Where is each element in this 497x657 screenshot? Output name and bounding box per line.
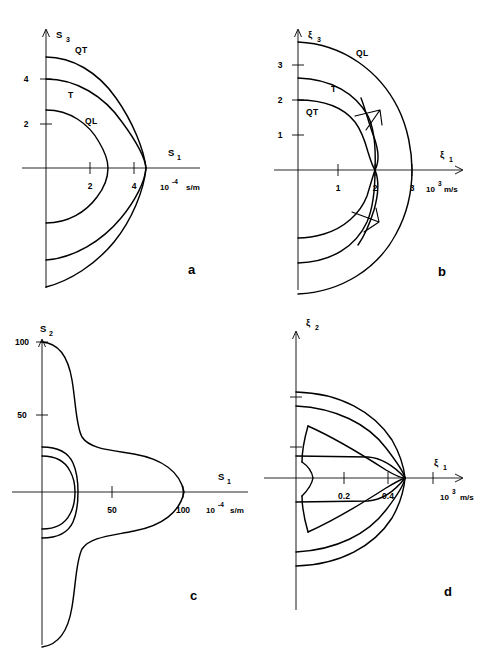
panel-b-ytick-label-3: 3 [278,60,283,70]
panel-b-x-axis-name: ξ [440,149,445,160]
panel-a-xtick-label-4: 4 [132,181,137,191]
panel-a-x-axis-sub: 1 [177,154,181,161]
panel-b-y-axis-name: ξ [308,29,313,40]
panel-c-ytick-label-50: 50 [17,410,27,420]
panel-a-mode-label-qt: QT [75,45,88,55]
panel-b-xtick-label-1: 1 [336,183,341,193]
panel-c-ytick-label-100: 100 [15,337,29,347]
panel-a-unit-text: s/m [186,183,200,192]
panel-c-xtick-label-50: 50 [107,505,117,515]
panel-b-mode-label-ql: QL [356,48,369,58]
panel-a-ytick-label-4: 4 [24,74,29,84]
panel-a-curve-qt [46,57,146,287]
panel-d-x-axis-sub: 1 [443,464,447,471]
panel-a-curve-ql [46,110,108,223]
panel-b-ytick-label-2: 2 [278,95,283,105]
panel-c-y-axis-name: S [40,323,46,334]
panel-b-unit-base: 10 [426,185,435,194]
panel-c-unit-text: s/m [230,506,244,515]
panel-a-letter: a [188,262,196,277]
panel-b-letter: b [438,264,446,279]
panel-c-letter: c [190,588,197,603]
panel-d-letter: d [444,584,452,599]
panel-c-unit-base: 10 [206,506,215,515]
panel-b-mode-label-qt: QT [306,107,319,117]
panel-d-y-axis-sub: 2 [315,324,319,331]
panel-b: 3 2 1 1 2 3 ξ 3 ξ 1 10 3 m/s [248,0,497,300]
panel-b-unit-exp: 3 [438,180,442,187]
panel-c: 100 50 50 100 S 2 S 1 10 -4 s/m c [0,300,250,657]
panel-b-curve-qt [298,100,375,238]
panel-b-x-axis-sub: 1 [449,156,453,163]
panel-b-mode-label-t: T [331,84,337,94]
panel-b-cusp-lower-arrowhead [352,208,379,232]
figure-four-panel-slowness-wave-surfaces: 4 2 2 4 S 3 S 1 10 -4 s/m QT T QL a [0,0,497,657]
panel-a-mode-label-ql: QL [85,116,98,126]
panel-d-unit-base: 10 [440,493,449,502]
panel-c-curve-outer [42,342,184,647]
panel-c-x-axis-sub: 1 [227,478,231,485]
panel-a: 4 2 2 4 S 3 S 1 10 -4 s/m QT T QL a [0,0,250,300]
panel-d-unit-exp: 3 [452,488,456,495]
panel-a-mode-label-t: T [68,90,74,100]
panel-c-unit-exp: -4 [218,501,224,508]
panel-b-y-axis-sub: 3 [317,36,321,43]
panel-c-x-axis-name: S [218,471,224,482]
panel-d: 0.2 0.4 ξ 2 ξ 1 10 3 m/s d [248,300,497,657]
panel-b-unit-text: m/s [444,185,458,194]
panel-c-curve-inner [42,456,75,529]
panel-a-y-axis-name: S [56,29,62,40]
panel-a-unit-exp: -4 [172,178,178,185]
panel-a-ytick-label-2: 2 [24,119,29,129]
panel-d-y-axis-name: ξ [306,317,311,328]
panel-d-cusp-upper [308,426,405,478]
panel-d-unit-text: m/s [460,493,474,502]
panel-d-curve-inner [302,462,313,496]
panel-d-x-axis-name: ξ [434,457,439,468]
panel-d-xtick-label-02: 0.2 [338,491,350,501]
panel-a-xtick-label-2: 2 [88,181,93,191]
panel-a-x-axis-name: S [168,147,174,158]
panel-a-curve-t [46,79,146,260]
panel-b-ytick-label-1: 1 [278,130,283,140]
panel-c-y-axis-sub: 2 [49,330,53,337]
panel-a-unit-base: 10 [160,183,169,192]
panel-a-y-axis-sub: 3 [66,36,70,43]
